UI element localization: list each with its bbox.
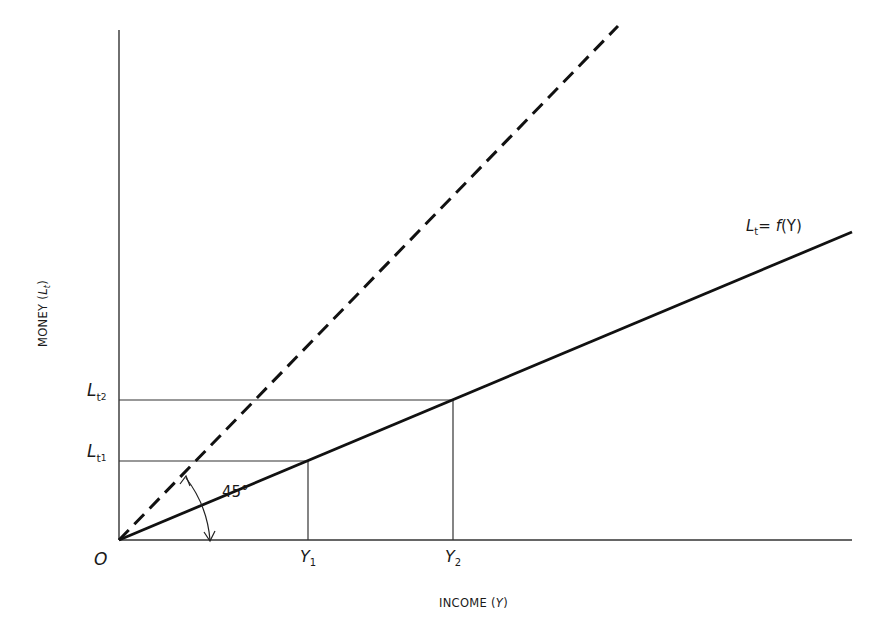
x-tick-y1-var: Y [300, 547, 310, 566]
y-tick-lt2: Lt2 [87, 380, 107, 400]
x-axis-title: INCOME (Y) [439, 596, 508, 610]
x-tick-y2-sub: 2 [455, 557, 461, 568]
y-axis-title-text: MONEY [36, 304, 50, 347]
x-tick-y2: Y2 [445, 547, 461, 566]
x-axis-paren-close: ) [503, 596, 508, 610]
y-tick-lt1: Lt1 [87, 441, 107, 461]
y-axis-var: L [36, 288, 50, 295]
curve-label: Lt= f(Y) [746, 217, 802, 235]
curve-label-sub: t [754, 226, 758, 237]
y-axis-paren-close: ) [36, 280, 50, 285]
y-axis-var-sub: t [43, 285, 52, 288]
curve-label-arg: (Y) [781, 217, 802, 235]
curve-label-eq: = [758, 217, 771, 235]
x-tick-y1-sub: 1 [310, 557, 316, 568]
y-axis-paren-open: ( [36, 295, 50, 300]
dashed-45-degree-line [119, 26, 618, 540]
y-axis-title: MONEY (Lt) [36, 280, 50, 347]
angle-label: 45° [222, 483, 249, 501]
diagram-canvas [0, 0, 878, 632]
x-tick-y1: Y1 [300, 547, 316, 566]
origin-label: O [94, 549, 107, 569]
y-tick-lt1-subsub: 1 [101, 453, 107, 463]
y-tick-lt2-subsub: 2 [101, 392, 107, 402]
x-tick-y2-var: Y [445, 547, 455, 566]
x-axis-title-text: INCOME [439, 596, 487, 610]
